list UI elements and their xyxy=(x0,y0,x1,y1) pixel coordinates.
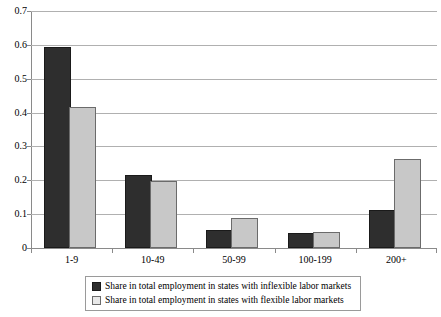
y-axis-tick-mark xyxy=(27,113,31,114)
bar xyxy=(44,47,71,248)
plot-area xyxy=(31,11,437,248)
y-axis-tick-label: 0.4 xyxy=(1,108,27,118)
y-axis-tick-label: 0.5 xyxy=(1,74,27,84)
bar-group xyxy=(112,11,193,248)
x-axis-category-label: 100-199 xyxy=(275,254,356,266)
y-axis-tick-label: 0.7 xyxy=(1,6,27,16)
bar xyxy=(394,159,421,248)
y-axis-tick-mark xyxy=(27,79,31,80)
y-axis-tick-mark xyxy=(27,11,31,12)
bar-group xyxy=(31,11,112,248)
y-axis-tick-label: 0.3 xyxy=(1,141,27,151)
bar xyxy=(313,232,340,248)
legend-entry-label: Share in total employment in states with… xyxy=(105,295,344,306)
bar-group xyxy=(275,11,356,248)
x-axis-category-label: 10-49 xyxy=(112,254,193,266)
bar-group xyxy=(356,11,437,248)
x-axis-category-label: 50-99 xyxy=(193,254,274,266)
y-axis-tick-mark xyxy=(27,45,31,46)
y-axis-tick-label: 0.6 xyxy=(1,40,27,50)
y-axis-tick-mark xyxy=(27,180,31,181)
y-axis-tick-label: 0.2 xyxy=(1,175,27,185)
legend-entry-label: Share in total employment in states with… xyxy=(105,281,351,292)
chart-legend: Share in total employment in states with… xyxy=(85,276,361,311)
x-axis-tick-mark xyxy=(275,248,276,253)
x-axis-category-label: 1-9 xyxy=(31,254,112,266)
y-axis-tick-label: 0.1 xyxy=(1,209,27,219)
filled-dark-square-icon xyxy=(92,282,101,291)
bar xyxy=(150,181,177,248)
legend-entry-flexible: Share in total employment in states with… xyxy=(92,293,354,307)
bar xyxy=(125,175,152,248)
bar xyxy=(69,107,96,248)
x-axis-tick-mark xyxy=(31,248,32,253)
bar-chart-figure: 00.10.20.30.40.50.60.7 1-910-4950-99100-… xyxy=(0,0,441,317)
x-axis-tick-mark xyxy=(193,248,194,253)
x-axis-tick-mark xyxy=(436,248,437,253)
filled-light-square-icon xyxy=(92,296,101,305)
bar xyxy=(288,233,315,248)
y-axis-tick-mark xyxy=(27,214,31,215)
bar xyxy=(369,210,396,248)
x-axis-category-labels: 1-910-4950-99100-199200+ xyxy=(31,254,437,270)
y-axis-tick-label: 0 xyxy=(1,243,27,253)
y-axis-tick-labels: 00.10.20.30.40.50.60.7 xyxy=(0,0,27,317)
x-axis-tick-mark xyxy=(356,248,357,253)
y-axis-tick-mark xyxy=(27,146,31,147)
bar xyxy=(231,218,258,248)
legend-entry-inflexible: Share in total employment in states with… xyxy=(92,279,354,293)
bar-group xyxy=(193,11,274,248)
x-axis-tick-mark xyxy=(112,248,113,253)
x-axis-category-label: 200+ xyxy=(356,254,437,266)
y-axis-tick-mark xyxy=(27,248,31,249)
bar xyxy=(206,230,233,248)
